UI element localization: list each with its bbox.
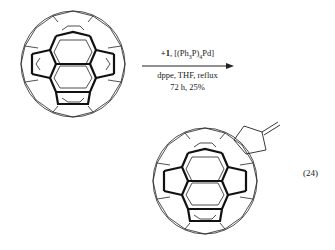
- reagents-label: +1, [(Ph3P)4Pd]: [140, 48, 235, 63]
- reagent-number: +1: [161, 48, 170, 58]
- reactant-fullerene: [18, 8, 128, 120]
- conditions-line1: dppe, THF, reflux: [140, 70, 235, 81]
- reagent-text: , [(Ph: [170, 48, 189, 58]
- reagent-text: Pd]: [202, 48, 214, 58]
- methylenecyclopentane-ring: [230, 118, 290, 168]
- conditions-line2: 72 h, 25%: [140, 82, 235, 93]
- equation-number: (24): [303, 168, 318, 178]
- reaction-arrow: [142, 62, 234, 70]
